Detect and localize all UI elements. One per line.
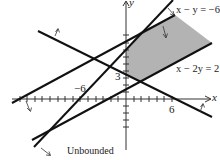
inequality-graph	[0, 0, 220, 160]
tick-label-3: 3	[115, 71, 121, 82]
equation-label-x-minus-2y: x − 2y = 2	[176, 64, 219, 75]
arrow-lower-icon	[41, 148, 51, 156]
arrow-up-icon	[55, 29, 60, 37]
line-x-minus-2y-eq-2	[32, 43, 212, 140]
tick-label-neg6: −6	[74, 83, 86, 94]
x-axis-label: x	[212, 92, 217, 103]
arrow-down-left-icon	[26, 101, 32, 112]
arrow-label-pointer-icon	[168, 8, 175, 16]
arrow-up-right-icon	[200, 104, 205, 113]
y-axis-label: y	[129, 0, 134, 8]
equation-label-x-minus-y: x − y = −6	[176, 5, 220, 16]
unbounded-annotation: Unbounded	[67, 146, 114, 156]
tick-label-6: 6	[169, 104, 175, 115]
